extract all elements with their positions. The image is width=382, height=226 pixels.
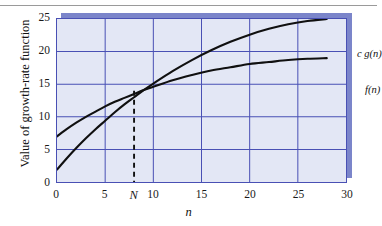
x-tick-label: 0 [43, 189, 69, 201]
x-axis-title: n [0, 205, 377, 220]
x-tick-label: 20 [237, 189, 263, 201]
x-tick-label: 5 [92, 189, 118, 201]
plot-svg [57, 19, 346, 182]
x-tick-label: 15 [189, 189, 215, 201]
x-tick-label: 10 [140, 189, 166, 201]
gridlines [57, 19, 346, 182]
top-divider-rule [0, 5, 377, 6]
curves [57, 19, 327, 170]
curve-f-n [57, 58, 327, 136]
y-axis-title: Value of growth-rate function [18, 0, 33, 189]
curve-label-c-g-n: c g(n) [357, 48, 382, 59]
plot-area: c g(n) f(n) [56, 18, 347, 183]
curve-c-g-n [57, 19, 327, 170]
x-tick-label: 30 [334, 189, 360, 201]
x-tick-label: 25 [286, 189, 312, 201]
curve-label-f-n: f(n) [365, 84, 380, 95]
